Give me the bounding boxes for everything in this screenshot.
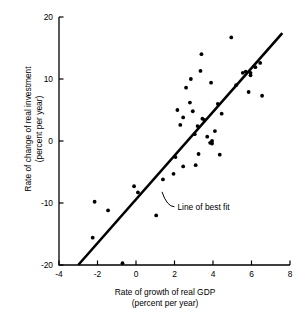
line-of-best-fit — [78, 33, 282, 265]
data-point — [121, 261, 125, 265]
x-tick-label: -2 — [94, 269, 102, 279]
data-point — [197, 152, 201, 156]
data-point — [200, 52, 204, 56]
data-point — [181, 116, 185, 120]
annotation-line-of-best-fit: Line of best fit — [177, 202, 230, 212]
x-tick-label: 6 — [249, 269, 254, 279]
x-axis-title-units: (percent per year) — [40, 298, 290, 309]
y-tick-label: -20 — [41, 260, 53, 270]
x-tick-label: 0 — [134, 269, 139, 279]
x-tick-label: 4 — [211, 269, 216, 279]
data-point — [175, 108, 179, 112]
data-point — [229, 36, 233, 40]
data-point — [220, 112, 224, 116]
data-point — [178, 123, 182, 127]
axes — [59, 17, 290, 265]
data-point — [172, 172, 176, 176]
x-tick-label: -4 — [55, 269, 63, 279]
scatter-chart-figure: -4-202468-20-1001020 Line of best fit Ra… — [0, 0, 305, 319]
data-point — [188, 101, 192, 105]
y-axis-title: Rate of change of real investment (perce… — [23, 34, 45, 224]
data-point — [205, 135, 209, 139]
data-point — [132, 184, 136, 188]
data-point — [260, 94, 264, 98]
data-points — [91, 36, 264, 265]
data-point — [93, 200, 97, 204]
x-tick-label: 8 — [288, 269, 293, 279]
data-point — [249, 73, 253, 77]
data-point — [161, 178, 165, 182]
data-point — [154, 214, 158, 218]
data-point — [209, 81, 213, 85]
plot-canvas: -4-202468-20-1001020 Line of best fit — [0, 0, 305, 319]
data-point — [210, 139, 214, 143]
data-point — [247, 90, 251, 94]
y-tick-label: 10 — [44, 74, 54, 84]
y-axis-title-main: Rate of change of real investment — [23, 34, 34, 224]
annotation-labels: Line of best fit — [177, 202, 230, 212]
data-point — [184, 86, 188, 90]
data-point — [189, 77, 193, 81]
x-axis-title-main: Rate of growth of real GDP — [40, 287, 290, 298]
annotation-leader-line — [162, 192, 174, 207]
data-point — [191, 109, 195, 113]
data-point — [218, 153, 222, 157]
data-point — [181, 165, 185, 169]
tick-labels: -4-202468-20-1001020 — [41, 12, 293, 279]
y-axis-title-units: (percent per year) — [34, 34, 45, 224]
data-point — [194, 163, 198, 167]
x-tick-label: 2 — [172, 269, 177, 279]
x-axis-title: Rate of growth of real GDP (percent per … — [40, 287, 290, 309]
data-point — [106, 209, 110, 213]
y-tick-label: 20 — [44, 12, 54, 22]
data-point — [213, 129, 217, 133]
data-point — [91, 236, 95, 240]
data-point — [199, 69, 203, 73]
y-tick-label: 0 — [48, 136, 53, 146]
